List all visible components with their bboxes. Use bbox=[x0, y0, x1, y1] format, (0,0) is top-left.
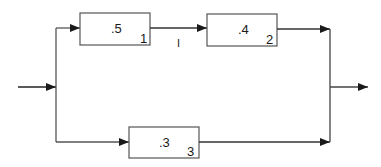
block-3-index: 3 bbox=[187, 145, 194, 158]
block-2-value: .4 bbox=[238, 23, 249, 36]
block-1-index: 1 bbox=[140, 32, 147, 45]
connector-label: I bbox=[177, 38, 180, 49]
block-3-value: .3 bbox=[159, 136, 170, 149]
block-2-index: 2 bbox=[266, 33, 273, 46]
diagram-canvas bbox=[0, 0, 381, 167]
block-1-value: .5 bbox=[111, 22, 122, 35]
